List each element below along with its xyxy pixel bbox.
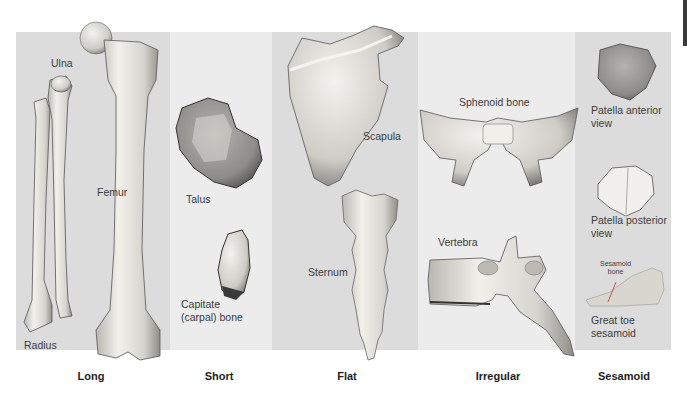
category-irregular: Irregular	[448, 370, 548, 382]
label-talus: Talus	[186, 193, 211, 206]
ulna-bone	[48, 76, 72, 318]
label-ulna: Ulna	[51, 57, 73, 70]
label-sesamoid-callout-line1: Sesamoid	[600, 260, 631, 268]
category-flat: Flat	[297, 370, 397, 382]
label-femur: Femur	[97, 186, 127, 199]
patella-anterior	[598, 44, 656, 100]
label-sternum: Sternum	[308, 266, 348, 279]
patella-posterior	[598, 166, 654, 216]
label-great-toe: Great toe sesamoid	[591, 314, 636, 340]
label-great-toe-line1: Great toe	[591, 314, 636, 327]
capitate-bone	[218, 230, 250, 300]
label-patella-posterior: Patella posterior view	[591, 214, 667, 240]
label-capitate-line1: Capitate	[181, 298, 243, 311]
label-sesamoid-callout: Sesamoid bone	[600, 260, 631, 277]
label-scapula: Scapula	[363, 130, 401, 143]
radius-bone	[24, 98, 52, 332]
label-patella-anterior-line2: view	[591, 117, 662, 130]
category-short: Short	[169, 370, 269, 382]
talus-bone	[176, 98, 262, 188]
category-long: Long	[41, 370, 141, 382]
sphenoid-bone	[420, 108, 578, 186]
label-capitate-line2: (carpal) bone	[181, 311, 243, 324]
label-patella-posterior-line1: Patella posterior	[591, 214, 667, 227]
category-sesamoid: Sesamoid	[574, 370, 674, 382]
label-patella-anterior: Patella anterior view	[591, 104, 662, 130]
label-radius: Radius	[24, 339, 57, 352]
label-great-toe-line2: sesamoid	[591, 327, 636, 340]
label-vertebra: Vertebra	[438, 236, 478, 249]
label-patella-anterior-line1: Patella anterior	[591, 104, 662, 117]
label-sesamoid-callout-line2: bone	[600, 268, 631, 276]
vertebra-bone	[428, 236, 574, 356]
label-patella-posterior-line2: view	[591, 227, 667, 240]
label-capitate: Capitate (carpal) bone	[181, 298, 243, 324]
scapula-bone	[288, 26, 404, 186]
sternum-bone	[342, 190, 398, 360]
label-sphenoid: Sphenoid bone	[459, 96, 530, 109]
